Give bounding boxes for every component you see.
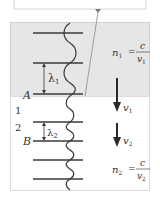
svg-text:c: c: [140, 158, 145, 168]
svg-text:c: c: [140, 41, 145, 51]
svg-text:=: =: [128, 47, 136, 57]
point-b-label: B: [22, 135, 31, 148]
point-a-label: A: [22, 89, 31, 102]
medium-2-number: 2: [15, 122, 21, 133]
top-panel: [14, 0, 146, 9]
svg-text:=: =: [128, 164, 136, 174]
medium-1-number: 1: [15, 105, 21, 116]
refraction-diagram: λ1 λ2 A B 1 2 n1 = c v1 v1 v2 n2 = c v2: [0, 0, 160, 198]
